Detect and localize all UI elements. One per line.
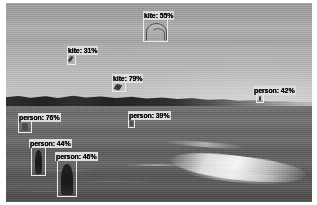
detection-visualization: kite: 55%kite: 31%kite: 79%person: 42%pe… [0,0,317,205]
detection-label[interactable]: kite: 79% [112,74,143,83]
beach-photo: kite: 55%kite: 31%kite: 79%person: 42%pe… [6,3,312,202]
detection-box[interactable] [67,54,76,65]
detection-box[interactable] [57,160,77,197]
detection-box[interactable] [18,121,32,133]
kite-canopy-ridge [151,28,165,40]
detection-box[interactable] [256,94,264,103]
kite-canopy [146,23,167,41]
person-silhouette [130,121,132,127]
detection-box[interactable] [128,119,135,128]
person-silhouette [35,150,42,174]
detection-label[interactable]: person: 44% [29,139,72,148]
detection-label[interactable]: person: 39% [128,111,171,120]
kite-silhouette [68,56,74,63]
person-silhouette [22,123,28,131]
water-streak [67,181,159,183]
detection-label[interactable]: person: 46% [55,152,98,161]
detection-label[interactable]: kite: 55% [143,11,174,20]
person-silhouette [259,96,261,100]
detection-label[interactable]: kite: 31% [67,46,98,55]
detection-box[interactable] [31,147,46,176]
detection-box[interactable] [112,82,126,92]
person-silhouette [61,164,74,195]
detection-box[interactable] [143,19,168,42]
detection-label[interactable]: person: 76% [18,113,61,122]
kite-silhouette [114,83,122,90]
detection-label[interactable]: person: 42% [253,86,296,95]
